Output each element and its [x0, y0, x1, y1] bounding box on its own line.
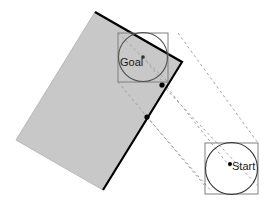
diagram-svg: Goal Start	[0, 0, 268, 201]
dashed-sweep-lower	[147, 117, 212, 192]
goal-label: Goal	[120, 56, 143, 68]
start-configuration: Start	[205, 143, 258, 195]
contact-dot-upper	[159, 82, 164, 87]
diagram-canvas: Goal Start	[0, 0, 268, 201]
dashed-sweep-top	[178, 33, 258, 143]
contact-dot-lower	[144, 114, 149, 119]
start-label: Start	[232, 160, 255, 172]
